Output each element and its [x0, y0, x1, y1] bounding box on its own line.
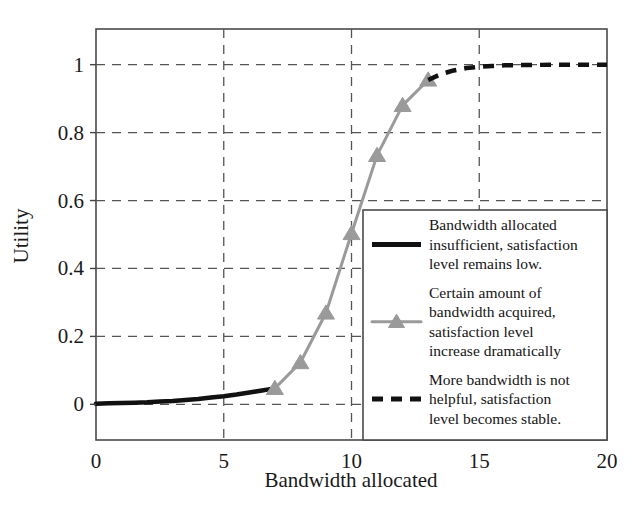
legend-entry-label: helpful, satisfaction [429, 390, 551, 407]
legend-entry-label: level becomes stable. [429, 410, 561, 427]
legend-entry-label: Bandwidth allocated [429, 216, 557, 233]
y-axis-title: Utility [9, 208, 33, 263]
y-tick-label: 0 [74, 392, 85, 416]
legend-entry-label: More bandwidth is not [429, 371, 570, 388]
x-axis-title: Bandwidth allocated [264, 468, 438, 492]
legend-entry-label: satisfaction level [429, 323, 534, 340]
chart-figure: 05101520 00.20.40.60.81 Bandwidth alloca… [0, 0, 638, 509]
legend-entry-label: insufficient, satisfaction [429, 236, 578, 253]
legend-entry-label: increase dramatically [429, 342, 561, 359]
y-tick-label: 0.4 [58, 256, 85, 280]
x-tick-label: 0 [91, 449, 102, 473]
chart-legend: Bandwidth allocatedinsufficient, satisfa… [363, 210, 607, 440]
legend-entry-label: Certain amount of [429, 284, 543, 301]
legend-entry-label: level remains low. [429, 255, 542, 272]
x-tick-label: 5 [219, 449, 230, 473]
y-tick-label: 0.6 [58, 189, 84, 213]
utility-vs-bandwidth-chart: 05101520 00.20.40.60.81 Bandwidth alloca… [0, 0, 638, 509]
x-tick-label: 15 [469, 449, 490, 473]
y-tick-label: 0.2 [58, 324, 84, 348]
y-tick-label: 0.8 [58, 121, 84, 145]
legend-entry-label: bandwidth acquired, [429, 303, 556, 320]
y-tick-label: 1 [74, 53, 85, 77]
x-tick-label: 20 [597, 449, 618, 473]
